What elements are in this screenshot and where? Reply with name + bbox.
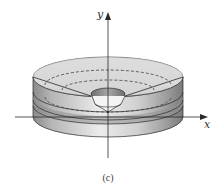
- cylinder-diagram: x y (c): [0, 0, 222, 195]
- x-axis-label: x: [204, 118, 211, 131]
- y-axis-label: y: [96, 8, 104, 21]
- figure-caption: (c): [102, 172, 113, 184]
- y-axis-arrow-icon: [105, 12, 111, 20]
- origin-point: [107, 111, 109, 113]
